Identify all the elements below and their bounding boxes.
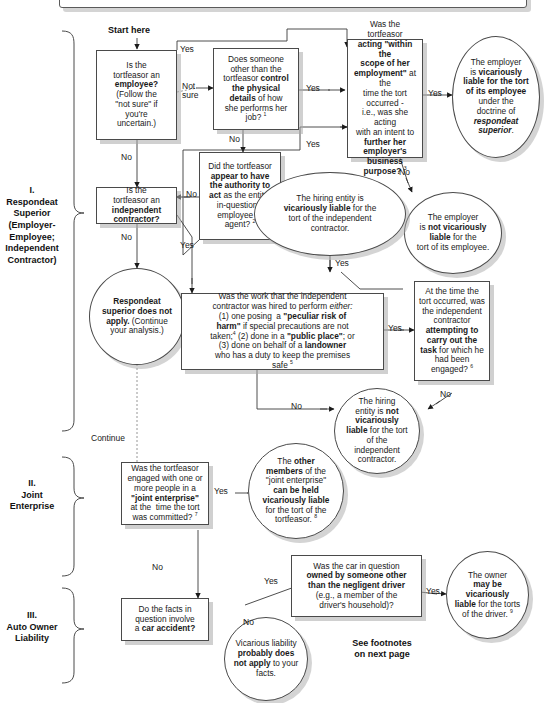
edge-label-work-yes: Yes <box>388 323 402 333</box>
edge-label-employee-notsure-2: sure <box>182 90 199 100</box>
start-here-label: Start here <box>108 25 150 35</box>
edge-label-car-yes: Yes <box>264 576 278 586</box>
top-cutoff-box <box>59 0 527 8</box>
edge-label-owner-yes: Yes <box>426 586 440 596</box>
node-text: Do the facts inquestion involvea car acc… <box>122 603 208 636</box>
node-text: Is thetortfeasor anindependentcontractor… <box>97 184 176 227</box>
result-owner-may-be-vicariously-liable[interactable]: The ownermay bevicariouslyliable for the… <box>446 551 529 639</box>
section-1-line-5: Independent <box>2 243 62 255</box>
node-car-owned-by-someone-other-than-driver[interactable]: Was the car in questionowned by someone … <box>291 555 422 617</box>
node-text: Is thetortfeasor anemployee?(Follow the"… <box>97 59 176 131</box>
result-hiring-entity-vicariously-liable[interactable]: The hiring entity isvicariously liable f… <box>254 172 406 256</box>
section-label-respondeat-superior: I. Respondeat Superior (Employer- Employ… <box>2 185 62 267</box>
node-text: Respondeatsuperior does notapply. (Conti… <box>90 295 184 338</box>
node-text: The othermembers of the"joint enterprise… <box>249 455 343 527</box>
edge-label-joint-yes: Yes <box>214 486 228 496</box>
edge-label-scope-no: No <box>399 167 410 177</box>
edge-label-employee-yes: Yes <box>180 44 194 54</box>
edge-label-carry-no: No <box>440 389 451 399</box>
see-footnotes-line-1: See footnotes <box>322 638 442 649</box>
edge-label-hiring-liable-yes: Yes <box>335 258 349 268</box>
section-2-line-1: Joint <box>2 490 62 502</box>
section-1-line-3: (Employer- <box>2 220 62 232</box>
node-joint-enterprise[interactable]: Was the tortfeasorengaged with one ormor… <box>121 462 209 525</box>
node-text: The ownermay bevicariouslyliable for the… <box>447 569 528 622</box>
result-hiring-entity-not-vicariously-liable[interactable]: The hiringentity is notvicariouslyliable… <box>334 388 420 474</box>
edge-label-control-yes: Yes <box>306 83 320 93</box>
edge-label-employee-no: No <box>121 152 132 162</box>
node-is-tortfeasor-independent-contractor[interactable]: Is thetortfeasor anindependentcontractor… <box>96 187 177 224</box>
section-1-numeral: I. <box>2 185 62 197</box>
edge-label-authority-no: No <box>186 189 197 199</box>
node-attempting-to-carry-out-task[interactable]: At the time thetort occurred, wasthe ind… <box>414 281 490 381</box>
node-text: Was the work that the independentcontrac… <box>182 290 383 372</box>
edge-label-car-no: No <box>243 617 254 627</box>
node-do-facts-involve-car-accident[interactable]: Do the facts inquestion involvea car acc… <box>121 598 209 641</box>
node-text: Vicarious liabilityprobably doesnot appl… <box>225 637 307 680</box>
node-text: The employeris not vicariouslyliable for… <box>405 211 501 254</box>
result-joint-enterprise-members-liable[interactable]: The othermembers of the"joint enterprise… <box>248 443 344 539</box>
node-text: Does someoneother than thetortfeasor con… <box>214 53 298 125</box>
edge-label-joint-no: No <box>152 562 163 572</box>
section-1-line-6: Contractor) <box>2 255 62 267</box>
node-text: Was the tortfeasorengaged with one ormor… <box>122 462 208 525</box>
node-text: Was the tortfeasoracting "within thescop… <box>348 18 422 179</box>
section-label-joint-enterprise: II. Joint Enterprise <box>2 478 62 513</box>
section-3-line-1: Auto Owner <box>2 622 62 634</box>
section-1-line-2: Superior <box>2 208 62 220</box>
edge-label-authority-yes: Yes <box>306 139 320 149</box>
result-employer-not-vicariously-liable[interactable]: The employeris not vicariouslyliable for… <box>404 192 502 274</box>
flowchart-page: Start here I. Respondeat Superior (Emplo… <box>0 0 552 703</box>
edge-label-work-no: No <box>291 401 302 411</box>
node-text: The hiring entity isvicariously liable f… <box>255 192 405 235</box>
section-1-line-4: Employee; <box>2 232 62 244</box>
node-work-type-peculiar-risk-public-place-landowner[interactable]: Was the work that the independentcontrac… <box>181 293 384 370</box>
result-employer-vicariously-liable[interactable]: The employeris vicariouslyliable for the… <box>452 36 540 158</box>
node-does-someone-control-physical-details[interactable]: Does someoneother than thetortfeasor con… <box>213 48 299 130</box>
result-respondeat-superior-not-apply[interactable]: Respondeatsuperior does notapply. (Conti… <box>89 268 185 365</box>
edge-label-control-no: No <box>229 134 240 144</box>
node-text: Was the car in questionowned by someone … <box>292 560 421 613</box>
see-footnotes-note: See footnotes on next page <box>322 638 442 661</box>
section-2-line-2: Enterprise <box>2 501 62 513</box>
node-text: The employeris vicariouslyliable for the… <box>453 56 539 138</box>
node-text: At the time thetort occurred, wasthe ind… <box>415 285 489 377</box>
section-3-line-2: Liability <box>2 633 62 645</box>
section-2-numeral: II. <box>2 478 62 490</box>
edge-label-indep-no: No <box>121 232 132 242</box>
edge-label-scope-yes: Yes <box>428 88 442 98</box>
edge-label-indep-yes: Yes <box>180 240 194 250</box>
section-label-auto-owner-liability: III. Auto Owner Liability <box>2 610 62 645</box>
node-is-tortfeasor-employee[interactable]: Is thetortfeasor anemployee?(Follow the"… <box>96 50 177 140</box>
result-vicarious-liability-not-apply[interactable]: Vicarious liabilityprobably doesnot appl… <box>224 617 308 701</box>
edge-label-continue: Continue <box>91 433 125 443</box>
section-3-numeral: III. <box>2 610 62 622</box>
node-within-scope-of-employment[interactable]: Was the tortfeasoracting "within thescop… <box>347 39 423 158</box>
see-footnotes-line-2: on next page <box>322 649 442 660</box>
node-text: The hiringentity is notvicariouslyliable… <box>335 395 419 467</box>
section-1-line-1: Respondeat <box>2 197 62 209</box>
